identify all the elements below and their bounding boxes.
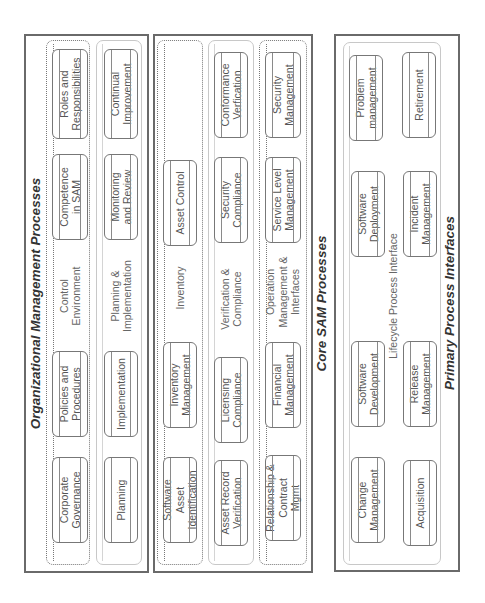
process-retirement: Retirement (402, 52, 436, 138)
core-sam-title: Core SAM Processes (314, 34, 329, 573)
planning-implementation-label: Planning & Implementation (104, 251, 138, 341)
process-change-management: Change Management (351, 457, 385, 543)
process-acquisition: Acquisition (403, 460, 437, 546)
control-environment-label: Control Environment (52, 251, 88, 341)
process-planning: Planning (104, 457, 138, 543)
process-corporate-governance: Corporate Governance (52, 457, 88, 543)
sam-process-diagram: Organizational Management Processes Corp… (0, 0, 485, 603)
process-continual-improvement: Continual Improvement (104, 49, 138, 139)
lifecycle-process-label: Lifecycle Process Interface (386, 251, 400, 341)
process-software-development: Software Development (351, 341, 385, 427)
process-asset-record-verification: Asset Record Verification (214, 460, 248, 546)
process-software-asset-identification: Software Asset Identification (163, 457, 197, 543)
process-inventory-management: Inventory Management (163, 342, 197, 428)
organizational-management-title: Organizational Management Processes (28, 34, 43, 573)
process-release-management: Release Management (403, 341, 437, 427)
process-relationship-contract-mgmt: Relationship & Contract Mgmt (265, 455, 301, 541)
process-policies-and-procedures: Policies and Procedures (52, 351, 88, 437)
process-competence-in-sam: Competence in SAM (52, 154, 88, 240)
process-incident-management: Incident Management (403, 171, 437, 257)
process-roles-and-responsibilities: Roles and Responsibilities (52, 49, 88, 139)
process-licensing-compliance: Licensing Compliance (214, 357, 248, 443)
process-implementation: Implementation (104, 351, 138, 437)
verification-compliance-label: Verification & Compliance (214, 253, 248, 345)
process-security-compliance: Security Compliance (214, 157, 248, 243)
inventory-label: Inventory (163, 243, 197, 333)
operation-management-label: Operation Management & Interfaces (263, 249, 303, 335)
process-problem-management: Problem management (349, 55, 383, 141)
process-security-management: Security Management (265, 52, 301, 138)
process-monitoring-and-review: Monitoring and Review (104, 154, 138, 240)
process-software-deployment: Software Deployment (351, 171, 385, 257)
process-conformance-verification: Conformance Verfication (214, 52, 248, 138)
process-service-level-management: Service Level Management (265, 157, 301, 243)
process-asset-control: Asset Control (163, 160, 197, 246)
process-financial-management: Financial Management (265, 342, 301, 428)
primary-process-title: Primary Process Interfaces (442, 34, 457, 572)
